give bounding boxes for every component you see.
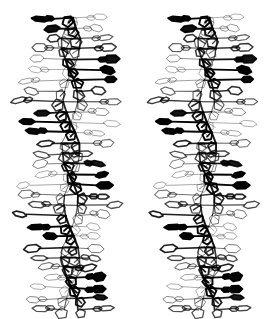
stereo-panel-right: [135, 0, 269, 319]
dna-helix-drawing-left: [0, 0, 134, 319]
stereo-pair-figure: [0, 0, 269, 319]
stereo-panel-left: [0, 0, 134, 319]
dna-helix-drawing-right: [135, 0, 269, 319]
